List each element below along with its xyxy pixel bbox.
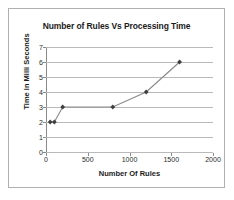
- y-axis-tick-label: 3: [29, 104, 43, 111]
- y-axis-tick-mark: [43, 137, 46, 138]
- y-axis-tick-label: 6: [29, 59, 43, 66]
- data-point-marker: [110, 105, 115, 110]
- x-axis-tick-label: 2000: [205, 156, 221, 164]
- y-axis-tick-mark: [43, 107, 46, 108]
- y-axis-tick-mark: [43, 92, 46, 93]
- x-axis-title: Number Of Rules: [46, 169, 213, 178]
- y-axis-tick-label: 1: [29, 134, 43, 141]
- series-line-processing-time: [46, 47, 213, 152]
- y-axis-tick-mark: [43, 152, 46, 153]
- chart-frame: Number of Rules Vs Processing Time Time …: [8, 8, 225, 188]
- y-axis-tick-label: 4: [29, 89, 43, 96]
- x-axis-tick-label: 1500: [163, 156, 179, 164]
- y-axis-tick-label: 5: [29, 74, 43, 81]
- chart-title: Number of Rules Vs Processing Time: [9, 21, 224, 31]
- data-point-marker: [52, 120, 57, 125]
- x-axis-tick-labels: 0500100015002000: [46, 156, 213, 166]
- plot-area: [46, 47, 213, 152]
- y-axis-tick-mark: [43, 47, 46, 48]
- x-axis-tick-label: 1000: [122, 156, 138, 164]
- y-axis-tick-label: 7: [29, 44, 43, 51]
- series-line: [50, 62, 179, 122]
- data-point-marker: [48, 120, 53, 125]
- y-axis-tick-labels: 01234567: [27, 47, 43, 152]
- y-axis-tick-label: 0: [29, 149, 43, 156]
- y-axis-tick-mark: [43, 62, 46, 63]
- data-point-marker: [60, 105, 65, 110]
- y-axis-tick-mark: [43, 77, 46, 78]
- y-axis-tick-label: 2: [29, 119, 43, 126]
- x-axis-tick-label: 0: [44, 156, 48, 164]
- x-axis-tick-label: 500: [82, 156, 94, 164]
- y-axis-tick-mark: [43, 122, 46, 123]
